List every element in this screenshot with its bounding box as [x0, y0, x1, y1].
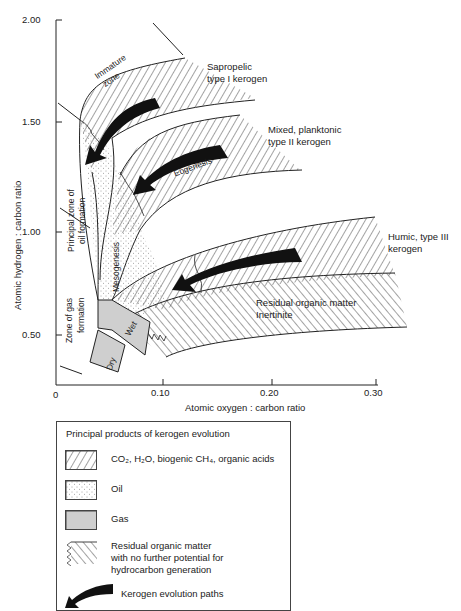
- residual-label-1: Residual organic matter: [256, 297, 356, 309]
- legend: Principal products of kerogen evolution …: [56, 421, 291, 611]
- stippled-swatch-icon: [65, 480, 97, 500]
- y-tick-1-50: 1.50: [22, 116, 41, 128]
- type-i-label-2: type I kerogen: [207, 73, 267, 85]
- x-tick-0-10: 0.10: [151, 387, 170, 399]
- legend-label: Oil: [111, 480, 123, 495]
- legend-title: Principal products of kerogen evolution: [66, 428, 230, 439]
- y-tick-2-00: 2.00: [22, 14, 41, 26]
- type-ii-label-1: Mixed, planktonic: [268, 124, 341, 136]
- residual-hatch-swatch-icon: [65, 540, 97, 566]
- hatched-swatch-icon: [65, 450, 97, 470]
- x-tick-0: 0: [53, 389, 58, 401]
- legend-label: Gas: [111, 510, 128, 525]
- legend-item-arrow: Kerogen evolution paths: [65, 582, 223, 608]
- y-tick-0-50: 0.50: [22, 329, 41, 341]
- type-i-label-1: Sapropelic: [207, 61, 252, 73]
- legend-item-residual: Residual organic matter with no further …: [65, 540, 223, 576]
- mesogenesis-label: Mesogenesis: [110, 242, 122, 292]
- y-tick-1-00: 1.00: [22, 226, 41, 238]
- y-axis-label: Atomic hydrogen : carbon ratio: [12, 181, 24, 310]
- gas-zone-label-1: Zone of gas: [63, 298, 75, 343]
- type-ii-label-2: type II kerogen: [268, 136, 331, 148]
- principal-oil-zone-label-2: oil formation: [76, 198, 88, 244]
- legend-label: Kerogen evolution paths: [121, 582, 223, 600]
- arrow-icon: [65, 582, 115, 608]
- legend-item-gas: Gas: [65, 510, 128, 530]
- residual-label-2: Inertinite: [256, 309, 292, 321]
- legend-item-hatched: CO₂, H₂O, biogenic CH₄, organic acids: [65, 450, 274, 470]
- x-tick-0-20: 0.20: [260, 387, 279, 399]
- x-tick-0-30: 0.30: [364, 387, 383, 399]
- legend-label-line1: Residual organic matter: [111, 540, 223, 552]
- type-iii-label-1: Humic, type III: [388, 231, 449, 243]
- legend-label-line3: hydrocarbon generation: [111, 564, 223, 576]
- gas-zone-label-2: formation: [75, 298, 87, 333]
- type-iii-label-2: kerogen: [388, 243, 422, 255]
- grey-swatch-icon: [65, 510, 97, 530]
- legend-item-oil: Oil: [65, 480, 123, 500]
- legend-label: CO₂, H₂O, biogenic CH₄, organic acids: [111, 450, 274, 465]
- legend-label-line2: with no further potential for: [111, 552, 223, 564]
- x-axis-label: Atomic oxygen : carbon ratio: [185, 402, 305, 414]
